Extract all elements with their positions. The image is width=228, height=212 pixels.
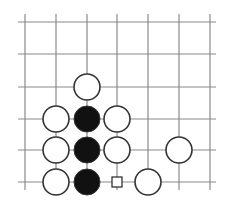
- white-stone: [166, 137, 192, 163]
- black-stone: [74, 106, 100, 132]
- black-stone: [74, 169, 100, 195]
- square-marker: [112, 177, 122, 187]
- white-stone: [104, 106, 130, 132]
- go-board: [0, 0, 228, 212]
- white-stone: [104, 137, 130, 163]
- markers: [112, 177, 122, 187]
- white-stone: [135, 169, 161, 195]
- white-stone: [74, 74, 100, 100]
- white-stone: [43, 106, 69, 132]
- black-stone: [74, 137, 100, 163]
- white-stone: [43, 169, 69, 195]
- white-stone: [43, 137, 69, 163]
